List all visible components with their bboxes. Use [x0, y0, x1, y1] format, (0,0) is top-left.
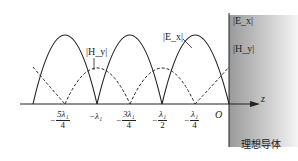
tick-neg-lambda-over-4: − λ₁4 [184, 110, 199, 131]
conductor-e-label: |E_x| [233, 16, 253, 26]
conductor-label: 理想导体 [241, 136, 281, 151]
z-axis-label: z [261, 94, 265, 104]
ideal-conductor-region [229, 15, 298, 147]
tick-neg-lambda: −λ₁ [89, 112, 102, 121]
origin-label: O [215, 110, 222, 120]
e-field-curve [33, 35, 229, 104]
tick-neg-lambda-over-2: − λ₁2 [152, 110, 167, 131]
tick-neg-3lambda-over-4: − 3λ₁4 [116, 110, 136, 131]
e-label-leader [183, 39, 192, 48]
tick-neg-5lambda-over-4: − 5λ₁4 [50, 110, 70, 131]
conductor-h-label: |H_y| [233, 44, 254, 54]
h-curve-label: |H_y| [86, 47, 107, 57]
standing-wave-diagram: |H_y| |E_x| |E_x| |H_y| z O − 5λ₁4 −λ₁ −… [0, 0, 298, 161]
h-field-curve [33, 67, 229, 104]
e-curve-label: |E_x| [163, 32, 183, 42]
